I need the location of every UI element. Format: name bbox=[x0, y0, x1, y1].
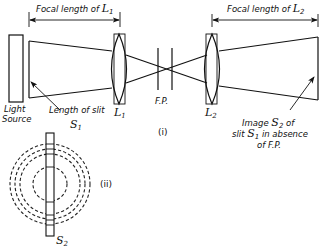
focal-length-l1-label: Focal length of L1 bbox=[36, 2, 114, 16]
focal-length-l2-dimension: Focal length of L2 bbox=[212, 2, 318, 27]
lens-l1-label: L1 bbox=[113, 106, 126, 120]
beam-left bbox=[29, 41, 112, 98]
slit-length-label: Length of slit bbox=[49, 105, 105, 115]
svg-text:slit S1 in absence: slit S1 in absence bbox=[232, 127, 308, 141]
slit-s2 bbox=[46, 133, 54, 236]
lens-l1 bbox=[112, 34, 127, 104]
image-pointer bbox=[290, 77, 314, 110]
light-source-box bbox=[9, 35, 23, 102]
optics-diagram: Focal length of L1 Focal length of L2 bbox=[0, 0, 322, 249]
beam-right bbox=[219, 37, 318, 100]
part-ii-label: (ii) bbox=[100, 179, 112, 189]
svg-text:of F.P.: of F.P. bbox=[257, 140, 281, 150]
converging-rays bbox=[126, 55, 207, 83]
focal-length-l1-dimension: Focal length of L1 bbox=[29, 2, 120, 27]
fabry-perot-label: F.P. bbox=[155, 96, 168, 106]
image-s2-label: Image S2 of slit S1 in absence of F.P. bbox=[232, 116, 308, 150]
lens-l2-label: L2 bbox=[204, 106, 217, 120]
slit-s1-symbol: S1 bbox=[70, 118, 82, 132]
part-i-label: (i) bbox=[158, 127, 168, 137]
light-source-label-line2: Source bbox=[2, 114, 31, 124]
lens-l2 bbox=[205, 34, 220, 104]
slit-s2-label: S2 bbox=[56, 234, 69, 248]
focal-length-l2-label: Focal length of L2 bbox=[227, 2, 305, 16]
light-source-label-line1: Light bbox=[4, 104, 26, 114]
